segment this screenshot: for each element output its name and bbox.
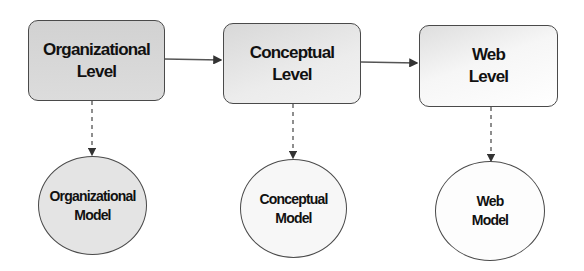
circle-label-line2: Model bbox=[472, 211, 508, 230]
conceptual-model-circle: Conceptual Model bbox=[240, 159, 347, 258]
conceptual-level-box: Conceptual Level bbox=[223, 23, 361, 104]
box-label-line1: Conceptual bbox=[250, 42, 335, 64]
box-label-line1: Organizational bbox=[43, 39, 150, 61]
organizational-level-box: Organizational Level bbox=[28, 20, 165, 101]
circle-label-line1: Web bbox=[477, 192, 504, 211]
box-label-line2: Level bbox=[77, 61, 116, 83]
box-label-line2: Level bbox=[272, 64, 311, 86]
web-model-circle: Web Model bbox=[435, 161, 545, 261]
web-level-box: Web Level bbox=[419, 25, 558, 107]
circle-label-line1: Organizational bbox=[49, 187, 135, 206]
circle-label-line1: Conceptual bbox=[259, 190, 327, 209]
arrow-org-to-conceptual bbox=[164, 59, 221, 60]
box-label-line1: Web bbox=[472, 44, 505, 66]
arrow-conceptual-to-web bbox=[361, 62, 417, 63]
box-label-line2: Level bbox=[469, 66, 508, 88]
circle-label-line2: Model bbox=[74, 206, 110, 225]
organizational-model-circle: Organizational Model bbox=[38, 156, 147, 255]
circle-label-line2: Model bbox=[275, 209, 311, 228]
